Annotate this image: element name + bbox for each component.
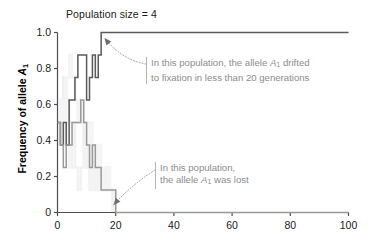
x-tick-label: 40 xyxy=(159,219,189,231)
series-line-fixed-population xyxy=(58,33,349,146)
x-tick-label: 20 xyxy=(101,219,131,231)
loss-annotation: In this population, the allele A1 was lo… xyxy=(155,162,249,189)
y-tick-label: 1.0 xyxy=(25,26,51,38)
y-tick-label: 0.2 xyxy=(25,170,51,182)
x-tick-label: 80 xyxy=(275,219,305,231)
plot-area xyxy=(0,0,369,248)
x-tick-label: 60 xyxy=(217,219,247,231)
genetic-drift-chart: Population size = 4 Frequency of allele … xyxy=(0,0,369,248)
x-tick-label: 0 xyxy=(43,219,73,231)
loss-annotation-leader-line xyxy=(114,170,156,205)
x-tick-label: 100 xyxy=(334,219,364,231)
fixation-annotation: In this population, the allele A1 drifte… xyxy=(146,57,310,84)
loss-annotation-line2: the allele A1 was lost xyxy=(160,174,249,189)
y-tick-label: 0.8 xyxy=(25,62,51,74)
y-tick-label: 0.6 xyxy=(25,98,51,110)
y-tick-label: 0 xyxy=(25,206,51,218)
y-tick-label: 0.4 xyxy=(25,134,51,146)
fixation-annotation-line1: In this population, the allele A1 drifte… xyxy=(151,57,310,72)
fixation-annotation-line2: to fixation in less than 20 generations xyxy=(151,72,310,84)
loss-annotation-line1: In this population, xyxy=(160,162,249,174)
